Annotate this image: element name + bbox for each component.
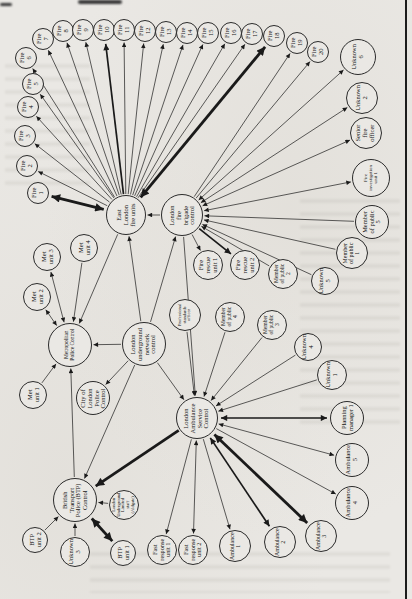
- node-mop2: Member of public 2: [268, 259, 298, 289]
- node-lasc: London Ambulance Service Control: [176, 397, 218, 439]
- node-amb5: Ambulance 5: [335, 443, 369, 477]
- node-label: Fire 13: [159, 27, 173, 37]
- node-label: Metropolitan Police Control: [64, 329, 75, 361]
- node-btpu1: BTP unit 1: [110, 540, 136, 566]
- node-unknown3: Unknown 3: [60, 537, 90, 567]
- node-label: London fire brigade control: [168, 205, 195, 225]
- node-label: Fire 11: [117, 25, 131, 35]
- node-btpu2: BTP unit 2: [22, 527, 48, 553]
- node-label: BTP unit 1: [116, 546, 130, 561]
- node-met4: Met unit 4: [70, 234, 98, 262]
- node-unknown5: Unknown 5: [311, 267, 339, 295]
- node-label: Met unit 4: [77, 241, 91, 256]
- node-mop5: Member of public 5: [355, 205, 389, 239]
- node-fire14: Fire 14: [176, 22, 198, 44]
- node-label: Met unit 2: [30, 290, 44, 305]
- node-fiu1: Fire investigation unit 1: [352, 159, 390, 197]
- node-fire6: Fire 6: [15, 47, 37, 69]
- network-nodes-layer: Fire 1Fire 2Fire 3Fire 4Fire 5Fire 6Fire…: [0, 0, 412, 599]
- node-label: Ambulance 3: [315, 522, 327, 550]
- node-met3: Met unit 3: [33, 243, 61, 271]
- node-fire20: Fire 20: [307, 41, 329, 63]
- node-fire2: Fire 2: [16, 155, 38, 177]
- node-label: Member of public 1: [343, 242, 362, 263]
- node-unknown6: Unknown 6: [340, 39, 376, 75]
- node-fire8: Fire 8: [52, 20, 74, 42]
- node-label: Fire 20: [311, 47, 325, 57]
- node-label: Met unit 3: [40, 250, 54, 265]
- node-elfu: East London fire units: [106, 195, 146, 235]
- node-label: London Ambulance Service Control: [184, 403, 211, 433]
- node-mop1: Member of public 1: [336, 237, 368, 269]
- node-fire17: Fire 17: [241, 23, 263, 45]
- node-label: Fire 16: [224, 28, 238, 38]
- node-fire19: Fire 19: [286, 32, 308, 54]
- node-amb2: Ambulance 2: [264, 526, 296, 558]
- node-label: Senior fire officer: [356, 124, 376, 141]
- node-unknown1: Unknown 1: [317, 360, 347, 390]
- node-label: Fire 4: [21, 102, 35, 112]
- node-lu: London underground network control: [122, 322, 166, 366]
- node-aldgate: London Underground Limited staff (Aldgat…: [109, 490, 139, 520]
- node-fire18: Fire 18: [263, 25, 285, 47]
- node-colpc: City of London Police Control: [76, 381, 110, 415]
- node-btp: British Transport Police (BTP) Control: [53, 478, 97, 522]
- node-label: Fire 8: [56, 26, 70, 36]
- node-fire11: Fire 11: [113, 19, 135, 41]
- node-label: Fast response unit 2: [183, 539, 203, 561]
- node-fire5: Fire 5: [22, 73, 44, 95]
- node-label: BTP unit 2: [28, 533, 42, 548]
- node-label: London underground network control: [130, 327, 157, 360]
- node-amb4: Ambulance 4: [335, 486, 369, 520]
- node-mop3: Member of public 3: [257, 310, 287, 340]
- node-label: British Transport Police (BTP) Control: [62, 483, 89, 517]
- node-label: Professional standards officer: [178, 304, 192, 326]
- node-lfbc: London fire brigade control: [161, 194, 203, 236]
- node-label: Fast response unit 1: [152, 539, 172, 561]
- node-pm1: Planning manager 1: [330, 401, 364, 435]
- node-fire1: Fire 1: [27, 182, 49, 204]
- node-fire3: Fire 3: [14, 125, 36, 147]
- node-label: Fire 15: [201, 28, 215, 38]
- node-label: Unknown 3: [68, 539, 82, 565]
- node-unknown2: Unknown 2: [346, 82, 378, 114]
- node-label: Fire investigation unit 1: [363, 165, 379, 191]
- node-fire13: Fire 13: [155, 21, 177, 43]
- scan-smudge: [0, 3, 12, 6]
- node-label: Fire 17: [245, 29, 259, 39]
- node-sfo: Senior fire officer: [350, 117, 382, 149]
- page-edge-line: [405, 0, 407, 599]
- node-fire10: Fire 10: [93, 19, 115, 41]
- node-fire7: Fire 7: [32, 28, 54, 50]
- node-label: Unknown 1: [325, 362, 339, 388]
- node-fru1: Fire rescue unit 1: [193, 250, 223, 280]
- node-label: Planning manager 1: [340, 405, 353, 432]
- node-fire4: Fire 4: [17, 96, 39, 118]
- node-label: Fire 3: [18, 131, 32, 141]
- node-label: Fire 2: [20, 161, 34, 171]
- node-amb3: Ambulance 3: [305, 520, 337, 552]
- node-label: Fire 19: [290, 38, 304, 48]
- scanned-page: Fire 1Fire 2Fire 3Fire 4Fire 5Fire 6Fire…: [0, 0, 412, 599]
- node-label: Ambulance 4: [345, 488, 358, 518]
- node-label: Met unit 1: [26, 388, 40, 403]
- node-label: Ambulance 5: [345, 445, 358, 475]
- node-unknown4: Unknown 4: [294, 333, 322, 361]
- node-label: Unknown 4: [301, 334, 315, 360]
- node-label: Unknown 6: [351, 44, 365, 70]
- node-met2: Met unit 2: [23, 283, 51, 311]
- node-label: Unknown 2: [355, 85, 369, 111]
- node-label: Fire 18: [267, 31, 281, 41]
- node-pso: Professional standards officer: [169, 299, 201, 331]
- node-label: Member of public 4: [221, 307, 238, 327]
- node-label: Fire 14: [180, 28, 194, 38]
- node-label: Fire 10: [97, 25, 111, 35]
- node-label: Fire rescue unit 2: [235, 257, 255, 274]
- node-label: Member of public 5: [362, 211, 382, 234]
- node-fire15: Fire 15: [197, 22, 219, 44]
- node-label: Fire 7: [36, 34, 50, 44]
- node-label: Unknown 5: [318, 268, 332, 294]
- node-fire12: Fire 12: [134, 20, 156, 42]
- node-label: Fire 12: [138, 26, 152, 36]
- node-label: City of London Police Control: [79, 388, 106, 408]
